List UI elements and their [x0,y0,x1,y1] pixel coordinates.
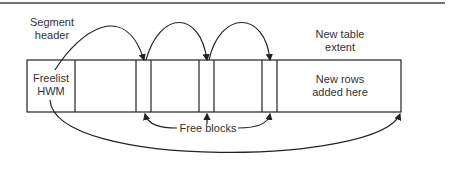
freelist-hwm-label: FreelistHWM [27,72,75,98]
new-table-extent-label: New tableextent [300,28,380,54]
freelist-chain-arrows [55,23,270,71]
free-blocks-label: Free blocks [172,122,244,135]
block-dividers [75,60,277,112]
new-rows-label: New rowsadded here [300,73,380,99]
segment-header-label: Segmentheader [22,16,82,42]
